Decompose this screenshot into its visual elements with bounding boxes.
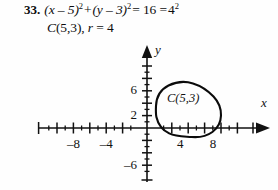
circle-center-annotation: C(5,3) bbox=[167, 91, 199, 105]
x-axis-arrowhead bbox=[256, 123, 270, 134]
x-tick-label-neg4: –4 bbox=[99, 136, 114, 151]
coordinate-plane-graph: x bbox=[0, 40, 278, 190]
radius-symbol: r bbox=[88, 20, 93, 35]
y-axis-group: y bbox=[142, 42, 162, 182]
radius-value: = 4 bbox=[96, 20, 113, 35]
equation-term-1-base: (x – 5) bbox=[44, 2, 79, 17]
figure-page: 33.(x – 5)2+(y – 3)2= 16 =42 C(5,3), r =… bbox=[0, 0, 278, 190]
problem-line-equation: 33.(x – 5)2+(y – 3)2= 16 =42 bbox=[24, 3, 179, 17]
equation-rhs-exponent: 2 bbox=[175, 1, 179, 11]
y-tick-label-6: 6 bbox=[131, 82, 138, 97]
circle-equation: (x – 5)2+(y – 3)2= 16 =42 bbox=[44, 2, 179, 17]
x-tick-labels: –8 –4 4 8 bbox=[66, 136, 216, 151]
x-axis-label: x bbox=[260, 95, 267, 110]
x-tick-label-neg8: –8 bbox=[66, 136, 80, 151]
problem-number: 33. bbox=[24, 2, 40, 17]
problem-line-center-radius: C(5,3), r = 4 bbox=[47, 21, 114, 35]
equation-rhs-base: 4 bbox=[168, 2, 175, 17]
y-axis-label: y bbox=[153, 42, 161, 57]
equation-equals-sixteen: = 16 = bbox=[131, 2, 168, 17]
y-tick-label-2: 2 bbox=[131, 107, 138, 122]
x-axis-group: x bbox=[38, 95, 270, 134]
center-coordinates: (5,3), bbox=[56, 20, 85, 35]
x-tick-label-8: 8 bbox=[210, 136, 217, 151]
y-tick-label-neg6: –6 bbox=[123, 157, 138, 172]
x-tick-label-4: 4 bbox=[177, 136, 184, 151]
equation-term-2-base: (y – 3) bbox=[92, 2, 127, 17]
center-symbol: C bbox=[47, 20, 56, 35]
y-axis-arrowhead bbox=[142, 45, 152, 58]
